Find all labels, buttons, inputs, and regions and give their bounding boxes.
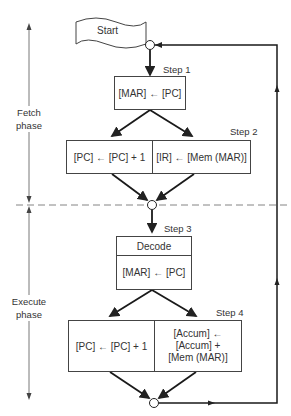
step4-label: Step 4 <box>216 307 243 318</box>
step3-operation: [MAR] ← [PC] <box>117 256 191 289</box>
junction-top <box>146 41 155 50</box>
step1-box: [MAR] ← [PC] <box>114 76 186 110</box>
step4-left-cell: [PC] ← [PC] + 1 <box>69 321 155 371</box>
step1-label: Step 1 <box>163 64 190 75</box>
step2-box: [PC] ← [PC] + 1 [IR] ← [Mem (MAR)] <box>66 140 251 174</box>
fetch-phase-label: Fetch phase <box>8 106 50 132</box>
step4-right-cell: [Accum] ← [Accum] + [Mem (MAR)] <box>155 321 241 371</box>
step2-label: Step 2 <box>230 126 257 137</box>
step3-header: Decode <box>117 237 191 256</box>
junction-bottom <box>150 399 159 408</box>
step4-box: [PC] ← [PC] + 1 [Accum] ← [Accum] + [Mem… <box>68 320 242 372</box>
step3-label: Step 3 <box>164 223 191 234</box>
step3-box: Decode [MAR] ← [PC] <box>116 236 192 290</box>
execute-phase-label: Execute phase <box>6 295 52 321</box>
step1-operation: [MAR] ← [PC] <box>119 88 182 99</box>
junction-mid <box>148 201 157 210</box>
step2-left-cell: [PC] ← [PC] + 1 <box>67 141 153 173</box>
step2-right-cell: [IR] ← [Mem (MAR)] <box>153 141 250 173</box>
start-label: Start <box>97 25 118 36</box>
